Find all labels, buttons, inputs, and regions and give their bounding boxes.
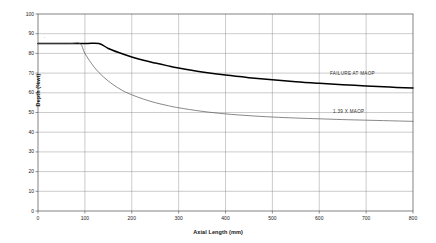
y-tick-label: 70: [18, 71, 34, 76]
y-tick-label: 100: [18, 12, 34, 17]
y-tick-label: 90: [18, 31, 34, 36]
y-tick-label: 20: [18, 169, 34, 174]
x-tick-label: 400: [214, 216, 238, 221]
y-axis-title-wrapper: Depth (%wt): [35, 55, 45, 125]
stray-mark: ': [44, 36, 45, 41]
x-tick-label: 100: [73, 216, 97, 221]
series-label-failure-at-maop: FAILURE AT MAOP: [330, 71, 375, 76]
y-tick-label: 80: [18, 51, 34, 56]
x-tick-label: 700: [354, 216, 378, 221]
y-tick-label: 10: [18, 189, 34, 194]
chart-canvas: [0, 0, 436, 243]
x-tick-label: 600: [307, 216, 331, 221]
x-tick-label: 200: [120, 216, 144, 221]
x-tick-label: 0: [26, 216, 50, 221]
x-tick-label: 300: [167, 216, 191, 221]
chart-figure: 0102030405060708090100 01002003004005006…: [0, 0, 436, 243]
y-tick-label: 40: [18, 130, 34, 135]
y-tick-label: 50: [18, 110, 34, 115]
series-label-ratio-maop: 1.39 X MAOP: [333, 109, 364, 114]
y-axis-title: Depth (%wt): [35, 55, 41, 125]
y-tick-label: 60: [18, 90, 34, 95]
x-axis-title: Axial Length (mm): [0, 229, 436, 235]
y-tick-label: 30: [18, 149, 34, 154]
y-tick-label: 0: [18, 209, 34, 214]
x-tick-label: 500: [260, 216, 284, 221]
x-tick-label: 800: [401, 216, 425, 221]
